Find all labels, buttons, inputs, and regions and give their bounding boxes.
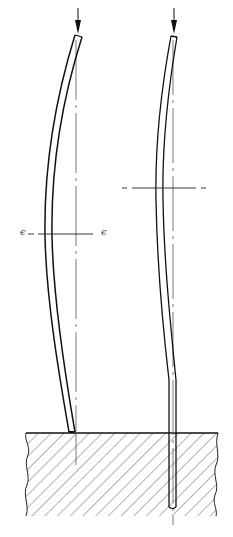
buckling-diagram: [0, 0, 233, 537]
right-load-arrow-head: [171, 20, 177, 34]
left-column: [28, 8, 93, 465]
ground-block: [20, 430, 225, 520]
left-section-label-a: ϵ: [20, 226, 26, 237]
left-load-arrow-head: [75, 20, 81, 34]
left-section-label-b: ϵ: [101, 226, 107, 237]
